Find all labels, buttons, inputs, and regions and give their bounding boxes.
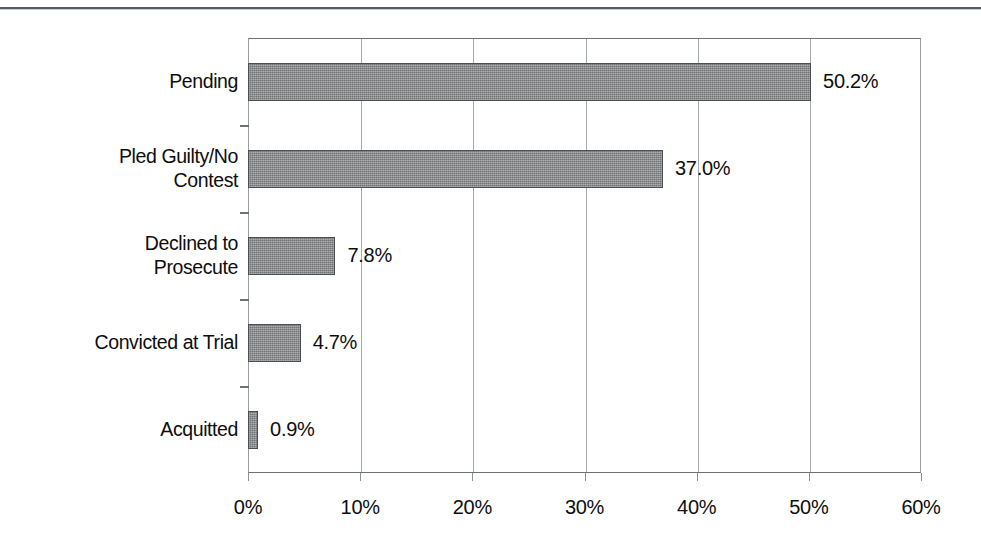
- x-axis-tick-50: [809, 473, 810, 481]
- category-label: Pending: [169, 69, 238, 93]
- page-top-rule: [0, 7, 981, 9]
- y-axis-tick: [240, 212, 249, 214]
- x-axis-tick-label: 40%: [657, 495, 737, 519]
- bar-chart-figure: 0%10%20%30%40%50%60%Pending50.2%Pled Gui…: [0, 0, 981, 537]
- x-axis-tick-30: [585, 473, 586, 481]
- bar: [248, 411, 258, 449]
- x-axis-tick-40: [697, 473, 698, 481]
- bar-value-label: 0.9%: [270, 418, 314, 440]
- x-axis-tick-60: [921, 473, 922, 481]
- bar-value-label: 7.8%: [347, 244, 391, 266]
- x-axis-tick-label: 10%: [320, 495, 400, 519]
- x-axis-tick-0: [248, 473, 249, 481]
- category-label: Acquitted: [160, 417, 238, 441]
- x-axis-tick-label: 30%: [545, 495, 625, 519]
- x-axis-tick-label: 0%: [208, 495, 288, 519]
- x-axis-tick-20: [472, 473, 473, 481]
- x-axis-tick-label: 50%: [769, 495, 849, 519]
- x-axis-tick-label: 20%: [432, 495, 512, 519]
- category-label: Pled Guilty/No Contest: [119, 144, 238, 192]
- bar: [248, 150, 663, 188]
- y-axis-tick: [240, 386, 249, 388]
- bar-value-label: 4.7%: [313, 331, 357, 353]
- gridline-x-30: [586, 39, 587, 472]
- gridline-x-20: [473, 39, 474, 472]
- y-axis-tick: [240, 299, 249, 301]
- category-label: Declined to Prosecute: [145, 231, 238, 279]
- category-label: Convicted at Trial: [95, 330, 238, 354]
- gridline-x-50: [810, 39, 811, 472]
- x-axis-tick-10: [360, 473, 361, 481]
- bar: [248, 237, 335, 275]
- x-axis-tick-label: 60%: [881, 495, 961, 519]
- y-axis-tick: [240, 125, 249, 127]
- bar-value-label: 37.0%: [675, 157, 730, 179]
- bar-value-label: 50.2%: [823, 70, 878, 92]
- gridline-x-40: [698, 39, 699, 472]
- bar: [248, 63, 811, 101]
- bar: [248, 324, 301, 362]
